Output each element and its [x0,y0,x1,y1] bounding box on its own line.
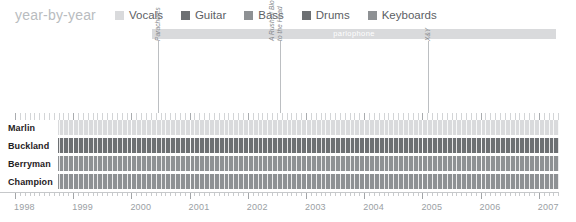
tick-mark [374,113,375,120]
tick-mark [282,113,283,120]
album-marker-label: X&Y [424,28,432,41]
axis-tick [161,193,162,196]
axis-year-label: 1999 [72,202,93,212]
tick-mark [418,113,419,120]
axis-tick [485,193,486,196]
tick-mark [306,113,307,120]
tick-mark [505,113,506,120]
tick-mark [78,113,79,120]
tick-mark [214,113,215,120]
tick-mark [524,113,525,120]
member-row[interactable]: Buckland [0,138,559,153]
album-marker-label-line: Parachutes [153,7,161,41]
member-row[interactable]: Marlin [0,120,559,135]
tick-mark [461,113,462,120]
axis-tick [20,193,21,196]
tick-mark [88,113,89,120]
tick-mark [262,113,263,120]
tick-mark [83,113,84,120]
tick-mark [25,113,26,120]
member-row[interactable]: Berryman [0,156,559,171]
album-marker-line: X&Y [428,41,429,115]
axis-tick [102,193,103,196]
tick-mark [170,113,171,120]
tick-mark [97,113,98,120]
axis-tick [330,193,331,196]
tick-mark [413,113,414,120]
legend-swatch-icon [115,11,124,20]
tick-mark [350,113,351,120]
axis-tick [282,193,283,196]
tick-mark [39,113,40,120]
tick-mark [359,113,360,120]
legend-item-label: Keyboards [382,9,437,21]
legend-item-keyboards[interactable]: Keyboards [368,9,437,21]
axis-tick [539,193,540,199]
legend-item-label: Drums [316,9,350,21]
legend-item-guitar[interactable]: Guitar [181,9,226,21]
axis-tick [272,193,273,196]
axis-tick [199,193,200,196]
axis-tick [209,193,210,196]
axis-tick [500,193,501,196]
axis-tick [495,193,496,196]
member-name-label: Marlin [8,123,35,133]
tick-mark [398,113,399,120]
axis-tick [359,193,360,196]
tick-mark [325,113,326,120]
axis-tick [442,193,443,196]
record-label-text: parlophone [333,29,375,39]
tick-mark [190,113,191,120]
tick-mark [253,113,254,120]
axis-tick [228,193,229,196]
axis-year-label: 2004 [363,202,384,212]
tick-mark [238,113,239,120]
tick-mark [539,113,540,120]
tick-mark [549,113,550,120]
tick-mark [156,113,157,120]
tick-mark [311,113,312,120]
axis-tick [325,193,326,196]
axis-tick [510,193,511,196]
member-row-band [0,120,559,135]
member-row[interactable]: Champion [0,174,559,189]
tick-mark [345,113,346,120]
tick-mark [258,113,259,120]
tick-mark [422,113,423,120]
axis-tick [398,193,399,196]
axis-tick [190,193,191,199]
tick-mark [136,113,137,120]
axis-tick [481,193,482,199]
axis-tick [34,193,35,196]
axis-tick [452,193,453,196]
axis-tick [224,193,225,196]
tick-mark [301,113,302,120]
axis-tick [165,193,166,196]
legend-swatch-icon [181,11,190,20]
axis-tick [524,193,525,196]
member-row-band [0,138,559,153]
tick-mark [175,113,176,120]
album-marker-label-line: X&Y [424,28,432,41]
tick-mark [59,113,60,120]
chart-header: year-by-year VocalsGuitarBassDrumsKeyboa… [0,0,576,26]
axis-tick [519,193,520,196]
axis-tick [403,193,404,196]
tick-mark [185,113,186,120]
tick-mark [151,113,152,120]
axis-tick [558,193,559,196]
axis-year-label: 2002 [247,202,268,212]
tick-mark [354,113,355,120]
tick-mark [408,113,409,120]
tick-mark [316,113,317,120]
axis-tick [296,193,297,196]
tick-mark [243,113,244,120]
axis-tick [170,193,171,196]
member-name-label: Buckland [8,141,49,151]
axis-tick [107,193,108,196]
legend-item-drums[interactable]: Drums [302,9,350,21]
axis-tick [262,193,263,196]
album-marker-line: A Rush of Bloodto the Head [280,41,281,115]
tick-mark [117,113,118,120]
axis-tick [30,193,31,196]
